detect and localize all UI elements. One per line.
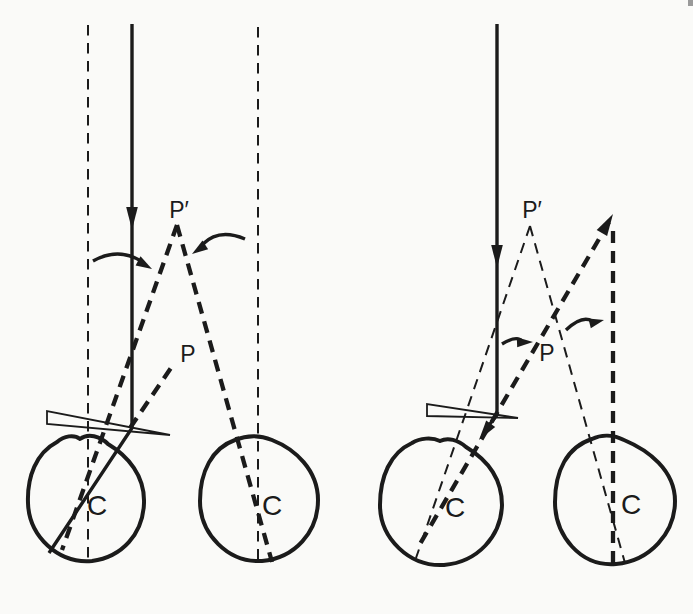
deviation-arrow-left	[93, 254, 152, 269]
shift-arrow-inner	[502, 337, 533, 347]
p-label: P	[539, 340, 554, 366]
left-eye-outline	[380, 439, 502, 566]
left-eye-center-label: C	[87, 490, 107, 521]
shift-arrow-outer	[566, 319, 604, 330]
figure-prism-adaptation: P′ P C C P′ P C	[0, 0, 693, 614]
prism	[427, 404, 518, 418]
left-eye-center-label: C	[445, 492, 465, 523]
incident-ray-arrowhead	[126, 207, 138, 230]
right-eye-center-label: C	[621, 489, 641, 520]
right-eye-center-label: C	[262, 490, 282, 521]
true-direction-line	[130, 362, 175, 428]
p-prime-label: P′	[522, 197, 542, 223]
adapted-percept-arrowhead	[597, 214, 613, 236]
left-diagram: P′ P C C	[28, 24, 318, 562]
incident-ray-arrowhead	[491, 245, 503, 268]
right-diagram: P′ P C C	[380, 24, 675, 565]
incident-ray	[486, 24, 497, 429]
p-label: P	[180, 341, 195, 367]
deviation-arrow-right	[192, 235, 245, 254]
scan-artifact	[688, 0, 693, 6]
old-percept-line-left	[416, 226, 530, 558]
p-prime-label: P′	[169, 197, 189, 223]
